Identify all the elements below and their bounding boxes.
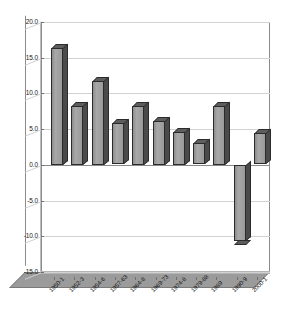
x-axis-tick-mark — [156, 277, 157, 280]
x-axis-tick-mark — [74, 277, 75, 280]
x-axis-tick-mark — [257, 277, 258, 280]
x-axis-tick-label: 1969-73 — [150, 274, 170, 294]
x-axis-tick-mark — [115, 277, 116, 280]
x-axis-tick-mark — [54, 277, 55, 280]
x-axis-tick-mark — [216, 277, 217, 280]
x-axis-tick-label: 1979-88 — [190, 274, 210, 294]
x-axis-tick-mark — [135, 277, 136, 280]
x-axis-tick-label: 1957-63 — [109, 274, 129, 294]
x-axis-tick-mark — [95, 277, 96, 280]
x-axis-tick-label: 1950-1 — [48, 276, 65, 293]
x-axis-tick-mark — [196, 277, 197, 280]
x-axis-tick-mark — [237, 277, 238, 280]
chart-container: 20.015.010.05.00.0-5.0-10.0-15.0 1950-11… — [0, 0, 293, 323]
x-axis-tick-label: 1964-8 — [129, 276, 146, 293]
x-axis-tick-mark — [176, 277, 177, 280]
x-axis-tick-label: 1954-6 — [89, 276, 106, 293]
x-axis: 1950-11952-31954-61957-631964-81969-7319… — [0, 0, 293, 323]
x-axis-tick-label: 1989 — [210, 280, 224, 294]
x-axis-tick-label: 2000-1 — [251, 276, 268, 293]
x-axis-tick-label: 1990-9 — [231, 276, 248, 293]
x-axis-tick-label: 1952-3 — [68, 276, 85, 293]
x-axis-tick-label: 1974-8 — [170, 276, 187, 293]
